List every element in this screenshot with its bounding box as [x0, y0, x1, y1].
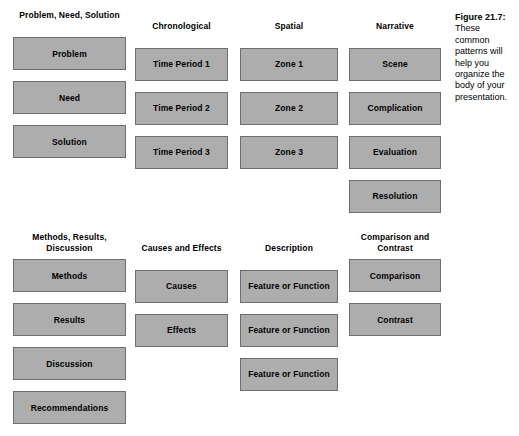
pattern-box[interactable]: Feature or Function [240, 314, 338, 347]
column-header: Chronological [135, 10, 228, 42]
figure-caption: Figure 21.7: These common patterns will … [455, 12, 517, 103]
pattern-box[interactable]: Time Period 3 [135, 136, 228, 169]
pattern-box[interactable]: Results [13, 303, 126, 336]
pattern-box[interactable]: Zone 2 [240, 92, 338, 125]
pattern-column-spatial: Spatial Zone 1 Zone 2 Zone 3 [240, 10, 338, 180]
pattern-box[interactable]: Complication [349, 92, 441, 125]
pattern-box[interactable]: Methods [13, 259, 126, 292]
pattern-box[interactable]: Problem [13, 37, 126, 70]
pattern-column-methods-results-discussion: Methods, Results, Discussion Methods Res… [13, 232, 126, 435]
pattern-column-description: Description Feature or Function Feature … [240, 232, 338, 402]
pattern-box[interactable]: Scene [349, 48, 441, 81]
box-list: Feature or Function Feature or Function … [240, 270, 338, 391]
pattern-box[interactable]: Resolution [349, 180, 441, 213]
pattern-box[interactable]: Feature or Function [240, 358, 338, 391]
column-header: Causes and Effects [135, 232, 228, 264]
figure-container: Problem, Need, Solution Problem Need Sol… [0, 0, 519, 436]
box-list: Problem Need Solution [13, 37, 126, 158]
pattern-box[interactable]: Time Period 2 [135, 92, 228, 125]
pattern-box[interactable]: Zone 3 [240, 136, 338, 169]
pattern-box[interactable]: Evaluation [349, 136, 441, 169]
box-list: Causes Effects [135, 270, 228, 347]
pattern-box[interactable]: Comparison [349, 259, 441, 292]
column-header: Methods, Results, Discussion [13, 232, 126, 253]
pattern-box[interactable]: Need [13, 81, 126, 114]
pattern-box[interactable]: Discussion [13, 347, 126, 380]
figure-caption-body: These common patterns will help you orga… [455, 23, 507, 101]
box-list: Methods Results Discussion Recommendatio… [13, 259, 126, 424]
column-header: Spatial [240, 10, 338, 42]
pattern-box[interactable]: Causes [135, 270, 228, 303]
box-list: Time Period 1 Time Period 2 Time Period … [135, 48, 228, 169]
pattern-column-chronological: Chronological Time Period 1 Time Period … [135, 10, 228, 180]
diagram-area: Problem, Need, Solution Problem Need Sol… [0, 0, 448, 436]
pattern-column-comparison-and-contrast: Comparison and Contrast Comparison Contr… [349, 232, 441, 347]
box-list: Zone 1 Zone 2 Zone 3 [240, 48, 338, 169]
box-list: Comparison Contrast [349, 259, 441, 336]
pattern-box[interactable]: Effects [135, 314, 228, 347]
pattern-column-problem-need-solution: Problem, Need, Solution Problem Need Sol… [13, 10, 126, 169]
pattern-box[interactable]: Contrast [349, 303, 441, 336]
pattern-box[interactable]: Time Period 1 [135, 48, 228, 81]
column-header: Comparison and Contrast [349, 232, 441, 253]
pattern-column-causes-and-effects: Causes and Effects Causes Effects [135, 232, 228, 358]
pattern-box[interactable]: Recommendations [13, 391, 126, 424]
box-list: Scene Complication Evaluation Resolution [349, 48, 441, 213]
pattern-box[interactable]: Solution [13, 125, 126, 158]
pattern-column-narrative: Narrative Scene Complication Evaluation … [349, 10, 441, 224]
figure-caption-label: Figure 21.7: [455, 12, 506, 22]
pattern-box[interactable]: Feature or Function [240, 270, 338, 303]
column-header: Description [240, 232, 338, 264]
column-header: Narrative [349, 10, 441, 42]
pattern-box[interactable]: Zone 1 [240, 48, 338, 81]
column-header: Problem, Need, Solution [13, 10, 126, 31]
